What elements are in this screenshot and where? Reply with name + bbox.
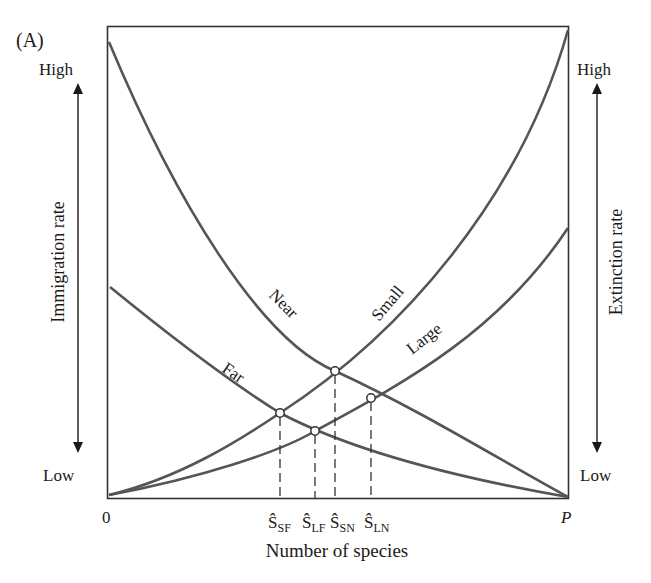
equilibrium-label-lf: ŜLF	[302, 513, 326, 535]
y-axis-left-title: Immigration rate	[48, 201, 68, 322]
right-axis-low-label: Low	[580, 466, 612, 485]
curve-far-immigration	[110, 287, 568, 497]
equilibrium-marker-sn	[331, 367, 339, 375]
curve-label-large: Large	[403, 319, 446, 358]
curve-near-immigration	[109, 42, 568, 497]
equilibrium-marker-lf	[311, 427, 319, 435]
equilibrium-label-ln: ŜLN	[364, 513, 390, 535]
right-axis-high-label: High	[577, 60, 612, 79]
curve-label-far: Far	[219, 359, 249, 388]
left-double-arrow-icon	[73, 83, 83, 453]
right-double-arrow-icon	[592, 83, 602, 453]
plot-frame	[108, 27, 569, 499]
equilibrium-label-sf: ŜSF	[268, 513, 291, 535]
left-axis-low-label: Low	[43, 466, 75, 485]
curve-small-extinction	[109, 30, 568, 495]
equilibrium-label-sn: ŜSN	[330, 513, 355, 535]
equilibrium-marker-sf	[276, 409, 284, 417]
panel-label: (A)	[16, 29, 44, 52]
chart-figure: (A) High Low Immigration rate High Low E…	[0, 0, 651, 583]
curve-label-small: Small	[368, 282, 408, 325]
curve-large-extinction	[109, 228, 568, 495]
curve-label-near: Near	[265, 285, 302, 322]
x-axis-title: Number of species	[266, 540, 408, 561]
equilibrium-marker-ln	[367, 394, 375, 402]
left-axis-high-label: High	[39, 60, 74, 79]
x-tick-zero: 0	[102, 508, 111, 527]
y-axis-right-title: Extinction rate	[606, 209, 626, 315]
x-tick-p: P	[560, 508, 571, 527]
